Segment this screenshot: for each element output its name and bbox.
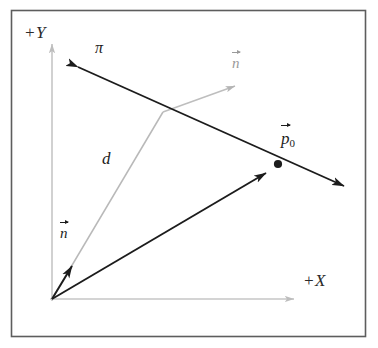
point-p0-label: p0 [281,130,295,149]
vector-arrow-accent-icon [60,222,68,223]
point-p0-label-text: p [281,129,290,148]
vector-accent-wrap: p [281,130,290,147]
diagram-vector-layer [0,0,378,348]
point-p0-subscript: 0 [290,137,296,149]
plane-label: π [95,40,103,56]
vector-accent-wrap: n [60,226,68,241]
normal-vector-origin-label-text: n [60,225,68,241]
normal-vector-origin-label: n [60,226,68,241]
vector-accent-wrap: n [232,56,240,71]
normal-vector-at-plane-label: n [232,56,240,71]
y-axis-label: +Y [24,24,46,41]
diagram-canvas: +Y +X π d n n p0 [0,0,378,348]
vector-arrow-accent-icon [232,52,240,53]
normal-vector-at-plane-label-text: n [232,55,240,71]
x-axis-label: +X [303,272,326,289]
point-p0-dot [274,160,282,168]
distance-label: d [102,150,111,167]
vector-arrow-accent-icon [281,125,290,126]
